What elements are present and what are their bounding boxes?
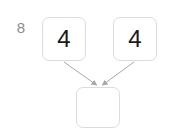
addend-right-value: 4	[128, 27, 141, 51]
number-bond-canvas: 8 4 4	[0, 0, 169, 136]
addend-left-box[interactable]: 4	[42, 17, 86, 61]
addend-left-value: 4	[57, 27, 70, 51]
edge-left-to-sum	[64, 62, 97, 85]
edge-right-to-sum	[103, 62, 135, 85]
addend-right-box[interactable]: 4	[113, 17, 157, 61]
problem-number-label: 8	[13, 19, 29, 37]
sum-box[interactable]	[76, 87, 120, 128]
